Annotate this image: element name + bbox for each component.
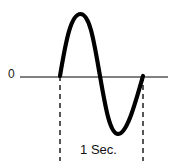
sine-wave-curve: [60, 14, 143, 134]
duration-label: 1 Sec.: [58, 142, 117, 158]
sine-wave-figure: 0 1 Sec.: [0, 0, 175, 167]
zero-level-label: 0: [8, 67, 15, 81]
duration-label-row: 1 Sec.: [0, 142, 175, 158]
